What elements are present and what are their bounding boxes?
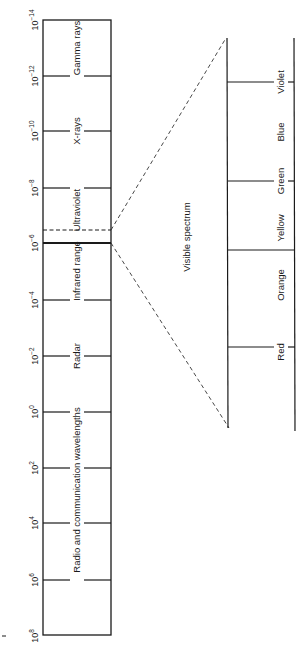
expansion-line-lower xyxy=(111,243,229,428)
band-label-radar: Radar xyxy=(71,343,82,369)
band-label-infrared: Infrared range xyxy=(71,241,82,301)
wavelength-tick-labels: 10−14 10−12 10−10 10−8 10−6 10−4 10−2 10… xyxy=(28,9,40,643)
band-label-radio: Radio and communication wavelengths xyxy=(71,407,82,573)
electromagnetic-spectrum-diagram: 10−14 10−12 10−10 10−8 10−6 10−4 10−2 10… xyxy=(0,0,307,646)
main-spectrum-scale xyxy=(2,20,111,636)
tick-label: 106 xyxy=(28,573,40,587)
tick-label: 10−6 xyxy=(28,234,40,252)
expansion-line-upper xyxy=(111,38,226,230)
band-label-gamma: Gamma rays xyxy=(71,21,82,76)
color-label-blue: Blue xyxy=(275,122,286,141)
color-label-red: Red xyxy=(275,343,286,360)
tick-label: 108 xyxy=(28,629,40,643)
color-label-green: Green xyxy=(275,168,286,194)
tick-label: 10−2 xyxy=(28,347,40,365)
tick-label: 100 xyxy=(28,405,40,419)
tick-label: 102 xyxy=(28,461,40,475)
band-labels: Gamma rays X-rays Ultraviolet Infrared r… xyxy=(71,21,82,573)
tick-label: 10−8 xyxy=(28,179,40,197)
expansion-lines xyxy=(111,38,229,428)
tick-label: 104 xyxy=(28,516,40,530)
band-label-xrays: X-rays xyxy=(71,117,82,145)
tick-label: 10−12 xyxy=(28,65,40,86)
band-label-ultraviolet: Ultraviolet xyxy=(71,189,82,232)
tick-label: 10−4 xyxy=(28,291,40,309)
color-label-orange: Orange xyxy=(275,269,286,301)
tick-label: 10−14 xyxy=(28,9,40,30)
visible-right-edge xyxy=(294,38,295,431)
tick-label: 10−10 xyxy=(28,120,40,141)
visible-spectrum-title: Visible spectrum xyxy=(181,202,192,272)
visible-left-edge xyxy=(227,38,228,428)
visible-color-labels: Violet Blue Green Yellow Orange Red xyxy=(275,70,286,361)
color-label-yellow: Yellow xyxy=(275,214,286,241)
color-label-violet: Violet xyxy=(275,70,286,94)
